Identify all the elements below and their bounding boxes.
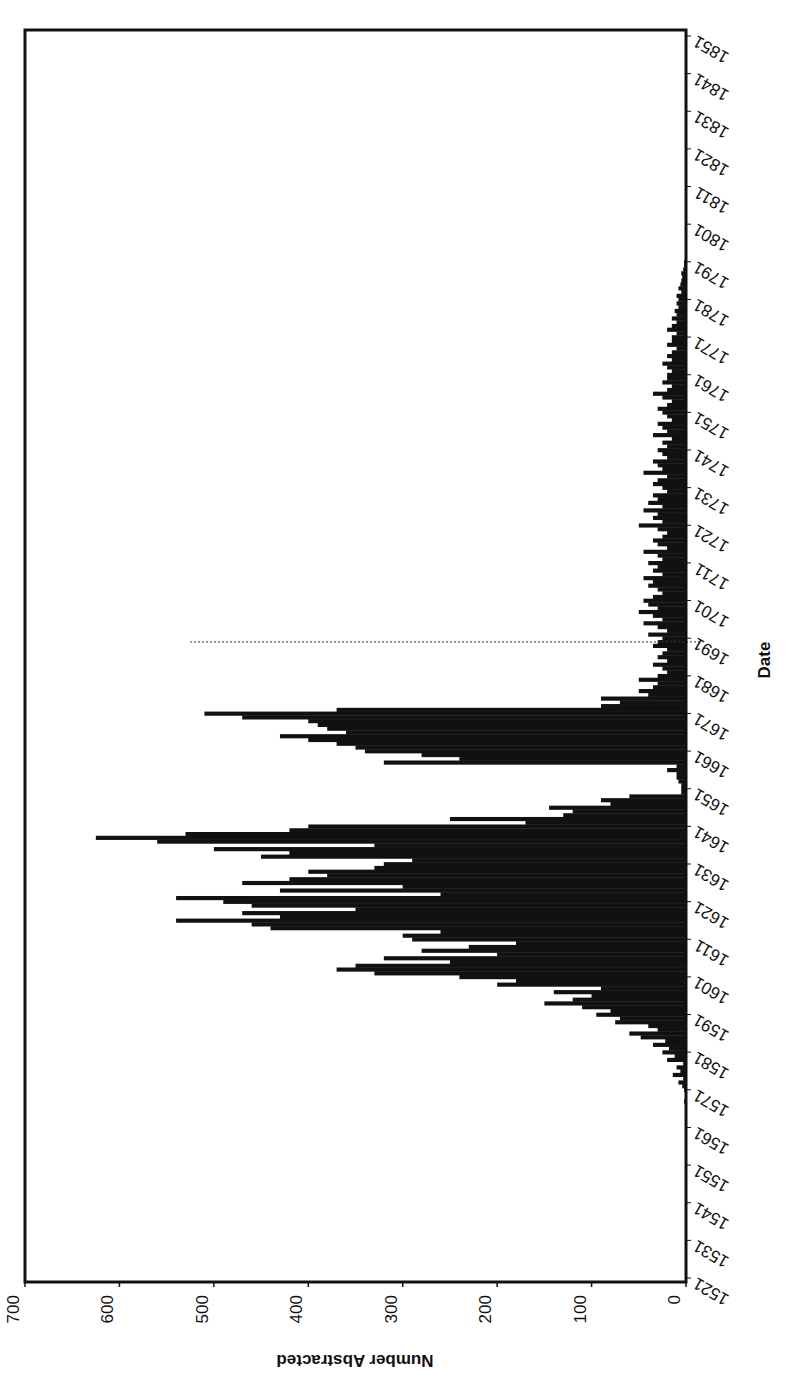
date-tick-label: 1691 [690,634,732,669]
date-tick-label: 1801 [690,220,732,255]
bar [658,448,686,452]
date-tick-label: 1521 [690,1274,732,1309]
date-tick-label: 1751 [690,408,732,443]
bar [639,678,686,682]
bar [450,817,686,821]
bar [384,862,686,866]
bar [658,1028,686,1032]
bar [667,429,686,433]
bar [223,900,686,904]
bar [639,523,686,527]
bar [544,1001,686,1005]
value-tick-label: 400 [287,1295,306,1323]
date-tick-label: 1651 [690,784,732,819]
bar [672,369,686,373]
bar [374,843,686,847]
bar [653,663,686,667]
bar [667,648,686,652]
bar [667,354,686,358]
date-tick-label: 1621 [690,897,732,932]
bar [374,866,686,870]
bar [669,1047,686,1051]
bar [318,723,686,727]
bar [403,885,686,889]
bar [665,1039,686,1043]
value-tick-label: 100 [571,1295,590,1323]
bar [644,471,686,475]
bar [96,836,686,840]
bar [667,670,686,674]
bar [469,945,686,949]
bar [186,832,686,836]
date-tick-label: 1641 [690,822,732,857]
bar [308,824,686,828]
bar [662,362,686,366]
bar [662,617,686,621]
bar [653,538,686,542]
bar [667,531,686,535]
bar [658,527,686,531]
bar [629,794,686,798]
bar [648,501,686,505]
bar [573,998,686,1002]
bar [422,949,686,953]
bar [667,373,686,377]
bar [648,633,686,637]
bar [667,1058,686,1062]
bar [667,474,686,478]
bar [658,565,686,569]
bar [644,508,686,512]
bar [573,809,686,813]
value-axis: 0100200300400500600700 [4,1282,686,1323]
bar [662,651,686,655]
bar [337,968,686,972]
date-tick-label: 1631 [690,860,732,895]
bar [662,426,686,430]
value-tick-label: 600 [98,1295,117,1323]
bar [653,516,686,520]
bar [667,490,686,494]
bar [374,971,686,975]
bar [289,851,686,855]
date-tick-label: 1611 [691,936,732,971]
bar [658,625,686,629]
bar [672,384,686,388]
bar [658,542,686,546]
bar [615,1020,686,1024]
bar [450,960,686,964]
date-tick-label: 1831 [690,107,732,142]
date-tick-label: 1581 [690,1048,732,1083]
bar [252,904,686,908]
date-tick-label: 1661 [690,747,732,782]
bar [658,512,686,516]
bar [601,798,686,802]
bar [662,505,686,509]
bar [629,1031,686,1035]
bar [346,730,686,734]
bar [648,693,686,697]
date-tick-label: 1721 [690,521,732,556]
bar [662,486,686,490]
bar [644,599,686,603]
bar [658,606,686,610]
bar [658,681,686,685]
date-axis: 1521153115411551156115711581159116011611… [686,32,732,1309]
date-axis-title: Date [755,642,774,679]
bar [658,587,686,591]
bar [337,708,686,712]
bar [667,328,686,332]
bar [653,644,686,648]
date-tick-label: 1701 [690,596,732,631]
bar [662,1050,686,1054]
bar [592,994,686,998]
bar [639,689,686,693]
bar [667,768,686,772]
date-tick-label: 1811 [691,183,732,218]
bar [667,414,686,418]
bar [662,666,686,670]
bar [582,1005,686,1009]
bar [252,922,686,926]
bar [610,802,686,806]
bar [662,591,686,595]
bar [667,365,686,369]
